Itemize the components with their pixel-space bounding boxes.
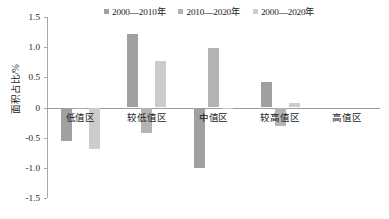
bar-group-bars-2 — [180, 17, 247, 198]
x-category-label-1: 较低值区 — [114, 110, 181, 124]
bar-group-bars-3 — [247, 17, 314, 198]
legend-item-2: 2000—2020年 — [253, 4, 314, 18]
bar-groups: 低值区较低值区中值区较高值区高值区 — [47, 17, 380, 198]
legend-swatch-icon-0 — [104, 9, 109, 14]
legend-label-0: 2000—2010年 — [112, 4, 165, 18]
bar-group-2: 中值区 — [180, 17, 247, 198]
y-tick-label-0: 1.5 — [29, 12, 40, 22]
y-axis-title: 面积占比/% — [8, 39, 22, 139]
y-tick-label-6: -1.5 — [25, 193, 40, 203]
y-tick-label-2: 0.5 — [29, 72, 40, 82]
bar-3-0 — [261, 82, 272, 108]
y-tick-label-3: 0 — [35, 103, 40, 113]
bar-group-4: 高值区 — [313, 17, 380, 198]
bar-1-0 — [127, 34, 138, 107]
legend-swatch-icon-2 — [253, 9, 258, 14]
legend-label-2: 2000—2020年 — [261, 4, 314, 18]
bar-group-3: 较高值区 — [247, 17, 314, 198]
bar-3-2 — [289, 103, 300, 107]
bar-1-2 — [155, 61, 166, 107]
y-tick-label-4: -0.5 — [25, 133, 40, 143]
legend-label-1: 2010—2020年 — [186, 4, 239, 18]
y-tick-6: -1.5 — [44, 198, 47, 199]
bar-0-1 — [75, 108, 86, 109]
x-category-label-3: 较高值区 — [247, 110, 314, 124]
chart-legend: 2000—2010年 2010—2020年 2000—2020年 — [104, 4, 374, 18]
bar-group-1: 较低值区 — [114, 17, 181, 198]
legend-item-0: 2000—2010年 — [104, 4, 165, 18]
legend-item-1: 2010—2020年 — [178, 4, 239, 18]
x-category-label-4: 高值区 — [313, 110, 380, 124]
plot-area: 1.51.00.50-0.5-1.0-1.5 低值区较低值区中值区较高值区高值区 — [47, 17, 380, 198]
bar-group-bars-1 — [114, 17, 181, 198]
bar-group-bars-0 — [47, 17, 114, 198]
bar-2-1 — [208, 48, 219, 107]
x-category-label-0: 低值区 — [47, 110, 114, 124]
bar-group-0: 低值区 — [47, 17, 114, 198]
bar-chart-figure: 2000—2010年 2010—2020年 2000—2020年 面积占比/% … — [0, 0, 389, 219]
x-category-label-2: 中值区 — [180, 110, 247, 124]
y-tick-label-1: 1.0 — [29, 42, 40, 52]
y-tick-label-5: -1.0 — [25, 163, 40, 173]
legend-swatch-icon-1 — [178, 9, 183, 14]
bar-group-bars-4 — [313, 17, 380, 198]
